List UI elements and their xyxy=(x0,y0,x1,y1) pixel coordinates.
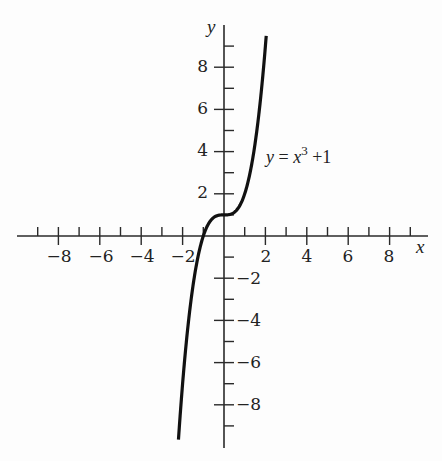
y-tick-label-m8: −8 xyxy=(236,394,261,414)
x-tick-label-p2: 2 xyxy=(261,246,272,266)
x-tick-label-p6: 6 xyxy=(343,246,354,266)
eq-y: y xyxy=(264,147,274,167)
y-tick-label-m2: −2 xyxy=(236,268,261,288)
y-tick-label-p4: 4 xyxy=(197,140,208,160)
y-tick-label-m4: −4 xyxy=(236,310,261,330)
x-tick-label-m6: −6 xyxy=(88,246,113,266)
x-tick-labels: −8 −6 −4 −2 2 4 6 8 xyxy=(46,246,394,266)
x-tick-label-p8: 8 xyxy=(384,246,395,266)
equation-label: y = x3 +1 xyxy=(264,143,331,167)
x-tick-label-m8: −8 xyxy=(46,246,71,266)
x-tick-label-p4: 4 xyxy=(302,246,313,266)
eq-x: x xyxy=(292,147,301,167)
chart-svg: −8 −6 −4 −2 2 4 6 8 8 6 4 2 −2 −4 −6 −8 … xyxy=(0,0,442,461)
eq-equals: = xyxy=(274,147,293,167)
x-tick-label-m2: −2 xyxy=(170,246,195,266)
x-tick-label-m4: −4 xyxy=(129,246,154,266)
y-axis-label: y xyxy=(205,16,216,37)
y-tick-label-p8: 8 xyxy=(197,56,208,76)
y-tick-label-p6: 6 xyxy=(197,98,208,118)
x-axis-label: x xyxy=(415,236,425,257)
chart-figure: −8 −6 −4 −2 2 4 6 8 8 6 4 2 −2 −4 −6 −8 … xyxy=(0,0,442,461)
y-tick-label-p2: 2 xyxy=(197,182,208,202)
eq-plus-one: +1 xyxy=(308,147,332,167)
cubic-curve xyxy=(178,36,266,440)
y-tick-label-m6: −6 xyxy=(236,352,261,372)
